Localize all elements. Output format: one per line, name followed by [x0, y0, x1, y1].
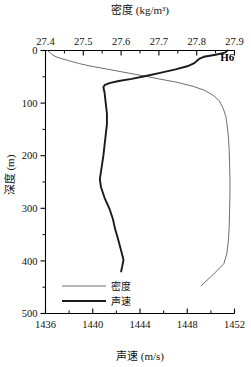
top-axis-tick-labels: 27.427.527.627.727.827.9: [36, 36, 243, 47]
bottom-axis-ticks: [46, 309, 235, 314]
density-curve: [47, 51, 230, 286]
top-tick-label: 27.9: [225, 36, 243, 47]
sound-speed-curve: [100, 51, 228, 272]
chart-legend: 密度声速: [62, 280, 131, 307]
top-axis-ticks: [46, 51, 235, 56]
bottom-axis-tick-labels: 14361440144414481452: [35, 319, 245, 330]
bottom-tick-label: 1444: [130, 319, 152, 330]
top-tick-label: 27.4: [36, 36, 55, 47]
bottom-tick-label: 1436: [35, 319, 56, 330]
left-axis-title: 深度 (m): [3, 154, 17, 195]
left-tick-label: 200: [22, 150, 38, 161]
left-axis-tick-labels: 0100200300400500: [22, 45, 38, 319]
left-tick-label: 400: [22, 256, 38, 267]
plot-frame: [46, 51, 235, 314]
top-tick-label: 27.8: [188, 36, 206, 47]
left-tick-label: 300: [22, 203, 38, 214]
top-tick-label: 27.7: [150, 36, 168, 47]
chart-svg: 密度 (kg/m³) 27.427.527.627.727.827.9 0100…: [0, 0, 251, 367]
legend-label: 声速: [111, 295, 131, 307]
top-tick-label: 27.6: [112, 36, 130, 47]
bottom-tick-label: 1448: [177, 319, 198, 330]
density-soundspeed-profile-chart: 密度 (kg/m³) 27.427.527.627.727.827.9 0100…: [0, 0, 251, 367]
top-axis-title: 密度 (kg/m³): [111, 3, 169, 17]
station-label: H6: [220, 51, 235, 63]
bottom-tick-label: 1440: [82, 319, 103, 330]
bottom-axis-title: 声速 (m/s): [116, 349, 164, 363]
left-tick-label: 100: [22, 98, 38, 109]
bottom-tick-label: 1452: [224, 319, 245, 330]
legend-label: 密度: [111, 280, 131, 292]
left-tick-label: 500: [22, 308, 38, 319]
left-tick-label: 0: [32, 45, 37, 56]
top-tick-label: 27.5: [74, 36, 92, 47]
left-axis-ticks: [41, 51, 46, 314]
